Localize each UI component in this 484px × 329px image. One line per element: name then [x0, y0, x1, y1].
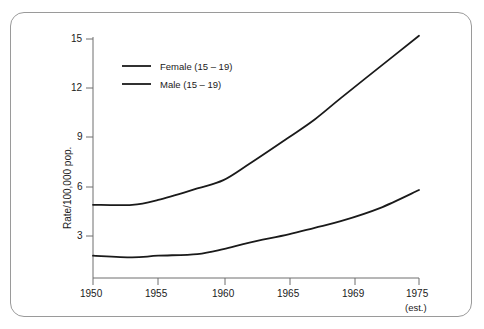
legend-label-female: Female (15 – 19)	[160, 61, 232, 72]
series-line-male	[93, 190, 419, 257]
x-tick-label-1969: 1969	[342, 288, 364, 299]
series-line-female	[93, 36, 419, 205]
legend-label-male: Male (15 – 19)	[160, 79, 221, 90]
x-tick-label-1965: 1965	[277, 288, 299, 299]
y-tick-label-6: 6	[77, 181, 83, 192]
y-tick-label-15: 15	[71, 33, 82, 44]
x-tick-label-1950: 1950	[80, 288, 102, 299]
y-axis-title: Rate/100,000 pop.	[62, 147, 73, 229]
x-tick-label-1960: 1960	[212, 288, 234, 299]
y-tick-label-9: 9	[77, 131, 83, 142]
x-tick-label-1975: 1975	[406, 288, 428, 299]
x-tick-estimate-note: (est.)	[405, 302, 427, 313]
y-axis-ticks	[86, 39, 93, 236]
x-axis-ticks	[93, 278, 419, 285]
figure: 15 12 9 6 3 Rate/100,000 pop. 1950 1955 …	[0, 0, 484, 329]
y-tick-label-3: 3	[77, 230, 83, 241]
y-tick-label-12: 12	[71, 82, 82, 93]
x-tick-label-1955: 1955	[145, 288, 167, 299]
